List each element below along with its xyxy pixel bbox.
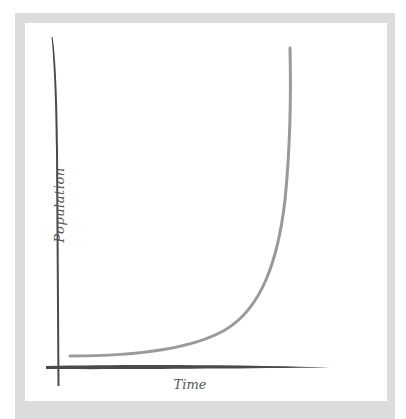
x-axis-label: Time bbox=[168, 377, 212, 395]
y-axis-label: Population bbox=[52, 165, 72, 245]
growth-curve bbox=[70, 48, 290, 356]
x-axis bbox=[46, 365, 331, 369]
